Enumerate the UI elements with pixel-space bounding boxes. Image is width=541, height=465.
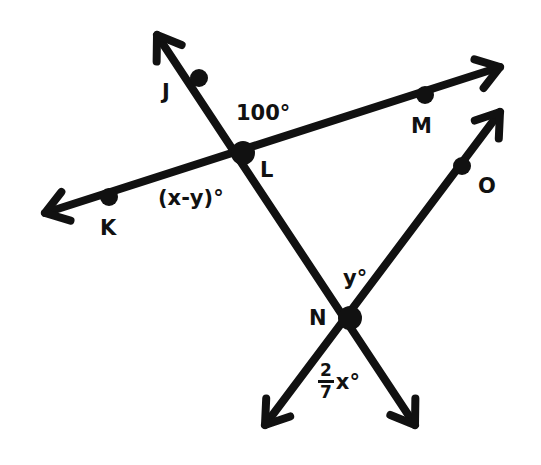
angle-label-y: y° [343,268,367,289]
point-label-M: M [411,116,432,137]
point-label-O: O [478,176,496,197]
point-K [100,188,118,206]
angle-label-100: 100° [236,103,290,124]
angle-label-x-minus-y: (x-y)° [158,188,224,209]
point-label-K: K [100,218,116,239]
point-O [453,157,471,175]
line-J-N [157,35,415,425]
point-label-J: J [162,82,170,103]
point-L [231,141,255,165]
point-M [416,86,434,104]
fraction-numerator: 2 [318,362,334,383]
angle-label-two-sevenths-x: 2 7 x° [318,362,360,401]
fraction-variable: x° [336,370,360,394]
point-label-N: N [309,308,327,329]
point-label-L: L [260,160,273,181]
point-N [338,306,362,330]
fraction: 2 7 [318,362,334,401]
geometry-diagram [0,0,541,465]
point-J [190,69,208,87]
fraction-denominator: 7 [320,383,332,401]
